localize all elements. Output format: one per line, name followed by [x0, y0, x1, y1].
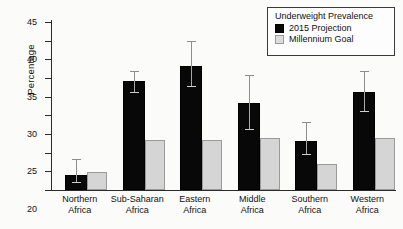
- y-tick-label: 30: [27, 129, 37, 139]
- bar-millennium-goal: [87, 172, 107, 190]
- legend-entry-millennium-goal: Millennium Goal: [275, 34, 388, 44]
- error-bar-cap-top: [302, 122, 311, 123]
- error-bar-lower: [76, 175, 77, 183]
- bar-group: [51, 22, 109, 190]
- error-bar-cap-bottom: [72, 182, 81, 183]
- legend-entry-2015-projection: 2015 Projection: [275, 23, 388, 33]
- y-tick-label: 40: [27, 54, 37, 64]
- error-bar-cap-top: [360, 71, 369, 72]
- error-bar-lower: [134, 81, 135, 93]
- error-bar-upper: [364, 71, 365, 92]
- bar-millennium-goal: [260, 138, 280, 190]
- error-bar-cap-top: [245, 75, 254, 76]
- error-bar-upper: [191, 41, 192, 66]
- bar-millennium-goal: [202, 140, 222, 190]
- error-bar-cap-bottom: [187, 86, 196, 87]
- legend-swatch-light-icon: [275, 35, 284, 44]
- error-bar-cap-top: [72, 159, 81, 160]
- error-bar-upper: [249, 75, 250, 103]
- bar-group: [166, 22, 224, 190]
- x-axis-line: [51, 190, 396, 191]
- error-bar-lower: [306, 141, 307, 155]
- legend-swatch-dark-icon: [275, 24, 284, 33]
- error-bar-upper: [76, 159, 77, 175]
- error-bar-upper: [134, 71, 135, 81]
- y-tick-label: 35: [27, 92, 37, 102]
- y-axis-title: Percentage: [25, 20, 36, 120]
- y-tick-label: 20: [27, 204, 37, 214]
- error-bar-cap-top: [187, 41, 196, 42]
- error-bar-cap-top: [130, 71, 139, 72]
- y-tick-label: 45: [27, 17, 37, 27]
- y-tick-label: 25: [27, 166, 37, 176]
- bar-millennium-goal: [317, 164, 337, 190]
- error-bar-cap-bottom: [360, 111, 369, 112]
- bar-chart-figure: Percentage 051015202530354045 Underweigh…: [0, 0, 403, 229]
- error-bar-upper: [306, 122, 307, 141]
- x-axis-category-line: Africa: [333, 205, 403, 216]
- x-axis-category-label: WesternAfrica: [333, 194, 403, 216]
- bar-2015-projection: [123, 81, 145, 190]
- bar-group: [109, 22, 167, 190]
- legend-label: 2015 Projection: [289, 23, 352, 33]
- error-bar-lower: [191, 66, 192, 87]
- bar-millennium-goal: [145, 140, 165, 190]
- legend-label: Millennium Goal: [289, 34, 354, 44]
- error-bar-lower: [364, 92, 365, 111]
- error-bar-cap-bottom: [302, 154, 311, 155]
- legend: Underweight Prevalence 2015 Projection M…: [267, 7, 395, 56]
- error-bar-cap-bottom: [130, 92, 139, 93]
- x-axis-category-line: Western: [333, 194, 403, 205]
- bar-millennium-goal: [375, 138, 395, 190]
- error-bar-cap-bottom: [245, 129, 254, 130]
- error-bar-lower: [249, 103, 250, 130]
- y-tick: 0: [45, 190, 51, 191]
- legend-title: Underweight Prevalence: [275, 11, 388, 21]
